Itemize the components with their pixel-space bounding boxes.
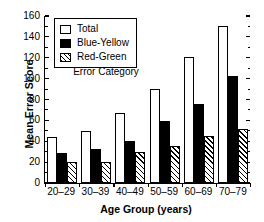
legend: TotalBlue-YellowRed-Green: [54, 18, 137, 68]
x-axis-tick-labels: 20–2930–3940–4950–5960–6970–79: [44, 186, 250, 197]
legend-label: Blue-Yellow: [77, 37, 129, 49]
bar-red-green: [170, 146, 180, 183]
y-tick-label: 80: [29, 93, 40, 107]
bar-blue-yellow: [194, 104, 204, 183]
bar-group: [148, 16, 182, 183]
bar-red-green: [101, 162, 111, 183]
y-tick-label: 140: [23, 30, 40, 44]
legend-swatch-red-green: [60, 53, 71, 62]
y-tick-label: 100: [23, 72, 40, 86]
x-tick-label: 40–49: [113, 186, 147, 197]
bar-red-green: [238, 129, 248, 183]
legend-item: Red-Green: [60, 50, 129, 64]
bar-blue-yellow: [125, 141, 135, 183]
y-tick-label: 20: [29, 155, 40, 169]
bar-red-green: [204, 136, 214, 183]
bar-blue-yellow: [57, 153, 67, 183]
bar-group: [182, 16, 216, 183]
y-tick-label: 40: [29, 134, 40, 148]
legend-swatch-blue-yellow: [60, 39, 71, 48]
legend-title: Error Category: [54, 66, 158, 77]
bar-total: [218, 26, 228, 184]
bar-blue-yellow: [228, 76, 238, 183]
bar-total: [47, 137, 57, 183]
legend-label: Total: [77, 23, 98, 35]
bar-total: [115, 113, 125, 183]
bar-blue-yellow: [91, 149, 101, 183]
legend-swatch-total: [60, 25, 71, 34]
x-axis-title: Age Group (years): [38, 203, 254, 215]
bar-total: [184, 57, 194, 183]
y-tick-label: 160: [23, 9, 40, 23]
x-tick-label: 50–59: [147, 186, 181, 197]
x-tick-label: 60–69: [181, 186, 215, 197]
bar-red-green: [135, 152, 145, 184]
bar-total: [81, 131, 91, 184]
y-tick-label: 120: [23, 51, 40, 65]
x-tick-label: 20–29: [44, 186, 78, 197]
x-tick-mark: [250, 183, 251, 187]
bar-red-green: [67, 162, 77, 183]
bar-group: [216, 16, 250, 183]
chart-figure: Mean Error Score 020406080100120140160 2…: [0, 0, 264, 222]
y-tick-label: 60: [29, 113, 40, 127]
legend-item: Blue-Yellow: [60, 36, 129, 50]
bar-blue-yellow: [160, 121, 170, 183]
y-tick-label: 0: [34, 176, 40, 190]
x-tick-label: 70–79: [216, 186, 250, 197]
legend-item: Total: [60, 22, 129, 36]
bar-total: [150, 89, 160, 184]
legend-label: Red-Green: [77, 51, 126, 63]
x-tick-label: 30–39: [78, 186, 112, 197]
